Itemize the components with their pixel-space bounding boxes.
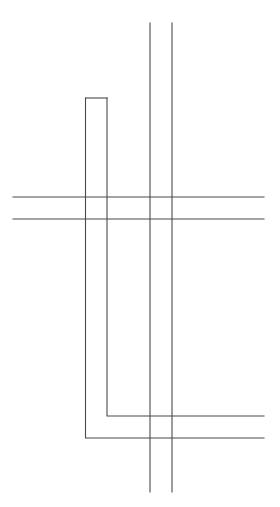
line-diagram [0, 0, 280, 507]
diagram-svg [0, 0, 280, 507]
l-shape-outer [86, 98, 265, 438]
l-shape-inner [107, 98, 264, 416]
